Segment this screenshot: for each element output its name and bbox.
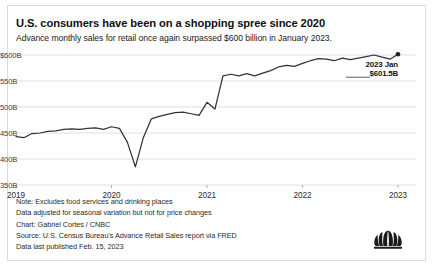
footnote-source: Source: U.S. Census Bureau's Advance Ret… (16, 230, 237, 241)
chart-title: U.S. consumers have been on a shopping s… (16, 17, 325, 29)
footnote-adjustment: Data adjusted for seasonal variation but… (16, 207, 237, 218)
footnote-published: Data last published Feb. 15, 2023 (16, 241, 237, 252)
y-axis-tick-label: 400B (0, 155, 13, 164)
cnbc-peacock-logo (371, 228, 405, 252)
y-axis-tick-label: 550B (0, 77, 13, 86)
annotation-value: $601.5B (326, 70, 398, 79)
y-axis-tick-label: 350B (0, 181, 13, 190)
footnote-note: Note: Excludes food services and drinkin… (16, 196, 237, 207)
y-axis-tick-label: 450B (0, 129, 13, 138)
chart-subtitle: Advance monthly sales for retail once ag… (16, 33, 332, 43)
x-axis-tick-label: 2022 (283, 191, 323, 200)
peacock-icon (371, 228, 405, 252)
y-axis-tick-label: 500B (0, 103, 13, 112)
footnote-chart-credit: Chart: Gabriel Cortes / CNBC (16, 219, 237, 230)
x-axis-tick-label: 2023 (378, 191, 418, 200)
y-axis-tick-label: $600B (0, 51, 13, 60)
footnotes-block: Note: Excludes food services and drinkin… (16, 196, 237, 252)
end-value-annotation: 2023 Jan $601.5B (326, 61, 398, 78)
chart-figure: U.S. consumers have been on a shopping s… (0, 0, 433, 268)
end-point-marker (396, 52, 401, 57)
